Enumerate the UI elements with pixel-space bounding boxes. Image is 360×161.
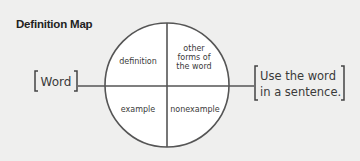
sentence-line-2: in a sentence. [260,85,341,99]
left-bracket-icon [35,71,38,91]
right-bracket-icon [74,71,77,91]
sentence-line-1: Use the word [260,69,336,83]
sentence-box: Use the word in a sentence. [255,66,344,100]
quadrant-other-forms-line-1: other [183,44,205,53]
right-bracket-icon [341,66,344,100]
quadrant-other-forms-line-2: forms of [177,53,210,62]
definition-map-diagram: Word Use the word in a sentence. definit… [0,0,360,161]
quadrant-nonexample: nonexample [170,105,220,114]
quadrant-definition: definition [119,57,157,66]
word-label: Word [41,75,72,89]
quadrant-example: example [121,105,156,114]
quadrant-other-forms-line-3: the word [176,62,211,71]
left-bracket-icon [255,66,258,100]
word-box: Word [35,71,77,91]
